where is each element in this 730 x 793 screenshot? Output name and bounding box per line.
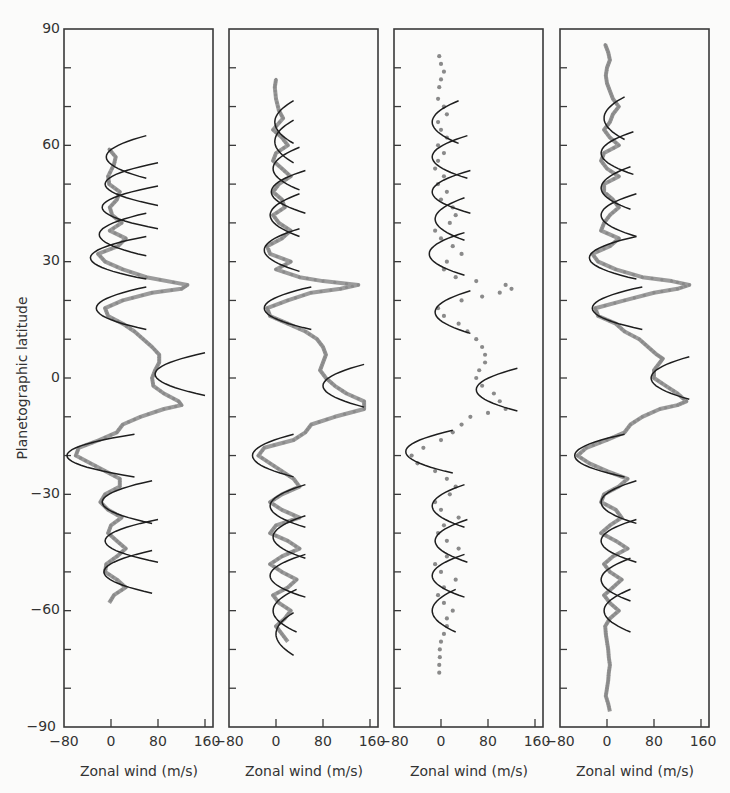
- model-arc: [435, 291, 470, 334]
- model-arc: [476, 368, 517, 411]
- panel-2: [229, 29, 378, 727]
- model-arc: [601, 194, 636, 237]
- y-tick-label-30: 30: [20, 252, 60, 268]
- model-arc: [155, 353, 205, 396]
- p2-x-tick-neg80: −80: [209, 733, 249, 749]
- p2-x-tick-0: 0: [256, 733, 296, 749]
- y-tick-label-neg30: −30: [20, 485, 60, 501]
- panel-frame: [394, 29, 543, 727]
- model-arc: [432, 485, 464, 528]
- panel-frame: [560, 29, 709, 727]
- y-tick-label-0: 0: [20, 369, 60, 385]
- p4-x-axis-label: Zonal wind (m/s): [555, 763, 715, 779]
- model-arc: [406, 430, 453, 473]
- model-arc: [102, 481, 152, 524]
- p4-x-tick-80: 80: [634, 733, 674, 749]
- panel-3: [394, 29, 543, 727]
- p3-x-tick-0: 0: [421, 733, 461, 749]
- p1-x-tick-80: 80: [138, 733, 178, 749]
- p2-x-tick-80: 80: [303, 733, 343, 749]
- panel-1: [64, 29, 213, 727]
- y-tick-label-neg60: −60: [20, 601, 60, 617]
- panel-frame: [64, 29, 213, 727]
- p3-x-axis-label: Zonal wind (m/s): [389, 763, 549, 779]
- model-arc: [432, 136, 467, 179]
- p1-x-axis-label: Zonal wind (m/s): [59, 763, 219, 779]
- p4-x-tick-neg80: −80: [540, 733, 580, 749]
- model-arc: [575, 434, 625, 477]
- figure-canvas: [0, 0, 730, 793]
- model-arc: [276, 613, 294, 656]
- y-tick-label-90: 90: [20, 20, 60, 36]
- model-arc: [601, 481, 636, 524]
- p2-x-axis-label: Zonal wind (m/s): [224, 763, 384, 779]
- observed-profile: [412, 56, 512, 680]
- p1-x-tick-neg80: −80: [44, 733, 84, 749]
- y-tick-label-60: 60: [20, 136, 60, 152]
- p1-x-tick-0: 0: [91, 733, 131, 749]
- y-tick-label-neg90: −90: [16, 718, 56, 734]
- model-arc: [104, 551, 152, 594]
- panel-frame: [229, 29, 378, 727]
- model-arc: [432, 554, 464, 597]
- observed-profile: [578, 45, 690, 712]
- p4-x-tick-160: 160: [683, 733, 723, 749]
- p3-x-tick-neg80: −80: [374, 733, 414, 749]
- panel-4: [560, 29, 709, 727]
- p4-x-tick-0: 0: [587, 733, 627, 749]
- p3-x-tick-80: 80: [468, 733, 508, 749]
